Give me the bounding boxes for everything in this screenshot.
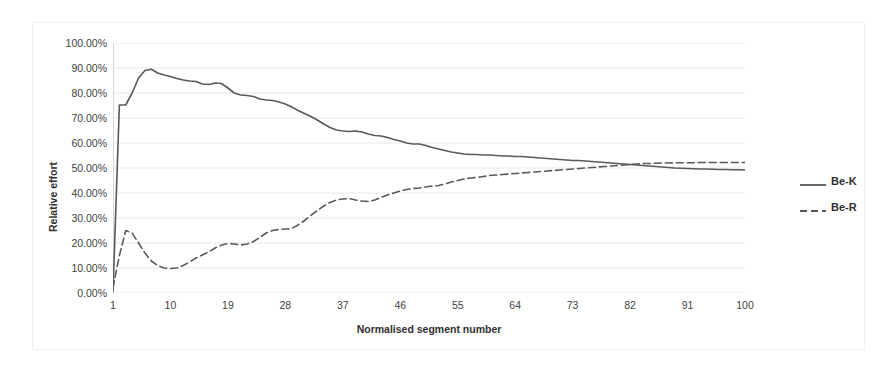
legend-key-solid-icon: [800, 176, 826, 186]
x-tick-label: 37: [337, 300, 349, 311]
y-tick-label: 90.00%: [35, 63, 107, 74]
y-tick-label: 40.00%: [35, 188, 107, 199]
legend-item-be-k[interactable]: Be-K: [800, 168, 892, 194]
y-tick-label: 100.00%: [35, 38, 107, 49]
gridlines: [113, 43, 745, 293]
legend-label: Be-R: [831, 201, 857, 213]
series-lines: [113, 69, 745, 292]
y-tick-label: 20.00%: [35, 238, 107, 249]
legend-key-dashed-icon: [800, 202, 826, 212]
x-tick-label: 10: [165, 300, 177, 311]
y-tick-label: 30.00%: [35, 213, 107, 224]
x-tick-label: 28: [280, 300, 292, 311]
x-tick-label: 55: [452, 300, 464, 311]
x-tick-label: 82: [624, 300, 636, 311]
x-tick-label: 100: [736, 300, 754, 311]
legend-item-be-r[interactable]: Be-R: [800, 194, 892, 220]
x-tick-label: 64: [509, 300, 521, 311]
series-line-be-r: [113, 163, 745, 289]
y-tick-label: 10.00%: [35, 263, 107, 274]
x-tick-label: 73: [567, 300, 579, 311]
x-tick-label: 46: [394, 300, 406, 311]
legend-label: Be-K: [831, 175, 857, 187]
y-tick-label: 70.00%: [35, 113, 107, 124]
x-tick-label: 91: [682, 300, 694, 311]
x-tick-label: 1: [110, 300, 116, 311]
plot-svg: [113, 43, 745, 293]
chart-figure: Relative effort 100.00%90.00%80.00%70.00…: [0, 0, 895, 372]
x-axis-tick-labels: 110192837465564738291100: [113, 300, 745, 316]
y-tick-label: 60.00%: [35, 138, 107, 149]
plot-area: [113, 43, 745, 293]
y-axis-tick-labels: 100.00%90.00%80.00%70.00%60.00%50.00%40.…: [33, 0, 107, 372]
y-tick-label: 0.00%: [35, 288, 107, 299]
x-axis-title: Normalised segment number: [113, 323, 745, 335]
chart-legend: Be-KBe-R: [800, 168, 892, 220]
series-line-be-k: [113, 69, 745, 292]
x-tick-label: 19: [222, 300, 234, 311]
y-tick-label: 50.00%: [35, 163, 107, 174]
y-tick-label: 80.00%: [35, 88, 107, 99]
